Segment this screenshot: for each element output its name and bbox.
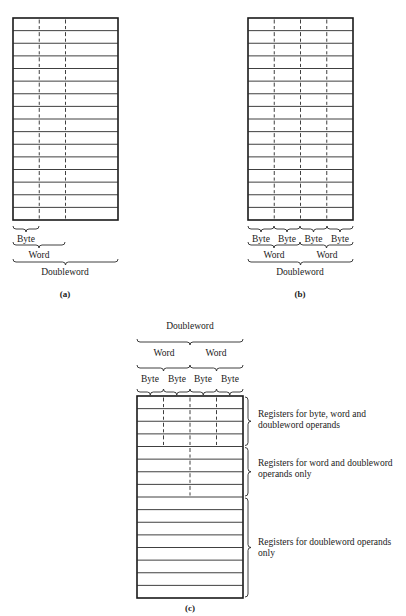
label-c-word-2: Word <box>206 348 227 359</box>
label-b-doubleword: Doubleword <box>276 267 324 278</box>
group-1-line-2: doubleword operands <box>258 420 366 431</box>
caption-c: (c) <box>185 603 195 613</box>
label-c-doubleword: Doubleword <box>166 321 214 332</box>
label-c-word-1: Word <box>154 348 175 359</box>
diagram-a-register-box <box>13 18 118 220</box>
label-b-word-1: Word <box>264 250 285 261</box>
group-3-line-2: only <box>258 548 391 559</box>
caption-a: (a) <box>60 289 71 299</box>
label-a-doubleword: Doubleword <box>41 267 89 278</box>
group-1-description: Registers for byte, word and doubleword … <box>258 409 366 431</box>
label-b-byte-1: Byte <box>252 234 270 245</box>
label-a-byte: Byte <box>17 234 35 245</box>
label-c-byte-1: Byte <box>141 374 159 385</box>
label-c-byte-2: Byte <box>168 374 186 385</box>
caption-b: (b) <box>295 289 306 299</box>
label-b-byte-3: Byte <box>305 234 323 245</box>
label-b-word-2: Word <box>317 250 338 261</box>
register-diagrams <box>0 0 406 616</box>
label-c-byte-4: Byte <box>221 374 239 385</box>
group-1-line-1: Registers for byte, word and <box>258 409 366 420</box>
label-a-word: Word <box>29 250 50 261</box>
diagram-b-register-box <box>248 18 353 220</box>
group-2-description: Registers for word and doubleword operan… <box>258 458 393 480</box>
group-3-description: Registers for doubleword operands only <box>258 537 391 559</box>
label-b-byte-2: Byte <box>278 234 296 245</box>
label-c-byte-3: Byte <box>194 374 212 385</box>
label-b-byte-4: Byte <box>331 234 349 245</box>
group-2-line-1: Registers for word and doubleword <box>258 458 393 469</box>
group-3-line-1: Registers for doubleword operands <box>258 537 391 548</box>
group-2-line-2: operands only <box>258 469 393 480</box>
diagram-c-register-box <box>137 396 243 598</box>
